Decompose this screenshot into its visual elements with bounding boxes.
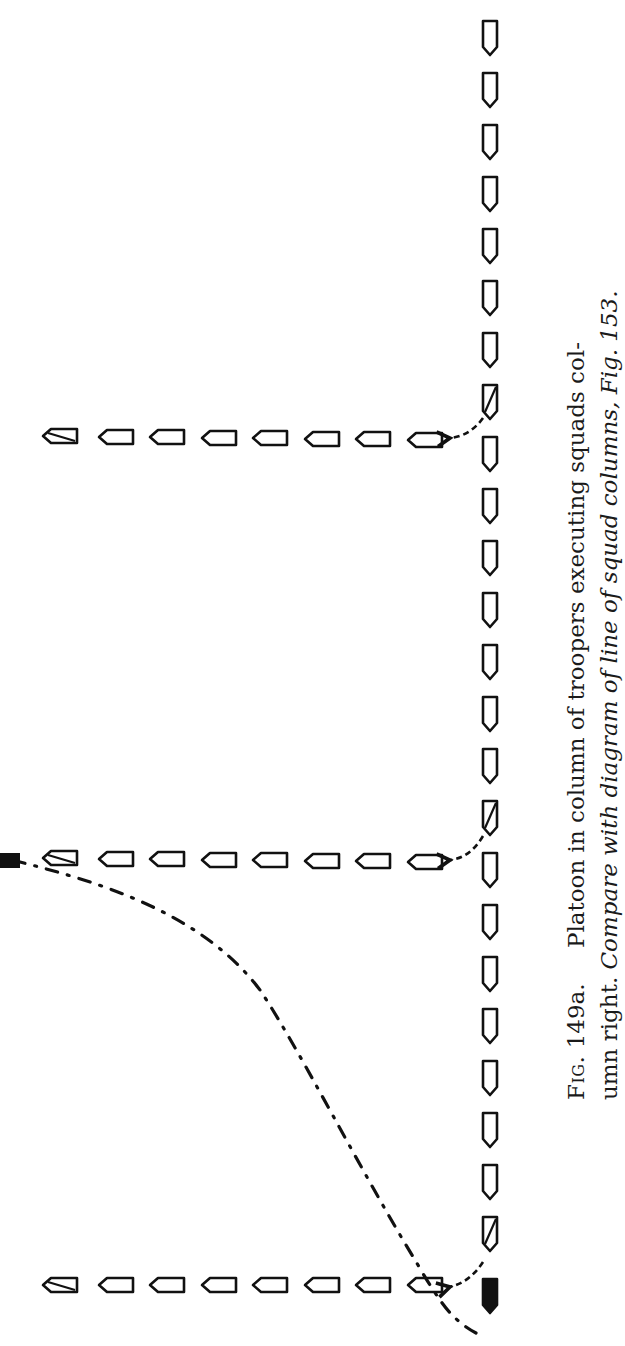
caption-line-2: umn right. Compare with diagram of line …	[593, 250, 625, 1100]
trooper-icon	[99, 852, 133, 866]
figure-caption: Fig. 149a. Platoon in column of troopers…	[520, 0, 600, 1346]
trooper-icon	[483, 749, 497, 783]
trooper-icon	[483, 1009, 497, 1043]
caption-text: Platoon in column of troopers executing …	[563, 342, 589, 948]
wheel-arrow	[450, 418, 483, 438]
trooper-icon	[150, 1278, 184, 1292]
squad-leader-trooper-icon	[43, 851, 77, 865]
trooper-icon	[253, 1278, 287, 1292]
trooper-icon	[356, 432, 390, 446]
trooper-icon	[150, 852, 184, 866]
caption-cross-reference: Compare with diagram of line of squad co…	[596, 290, 622, 969]
trooper-icon	[408, 1278, 442, 1292]
squad-column-2	[0, 836, 483, 869]
figure-number: 149a.	[563, 983, 589, 1048]
squad-leader-trooper-icon	[483, 385, 497, 419]
trooper-icon	[483, 489, 497, 523]
squad-leader-trooper-icon	[43, 429, 77, 443]
trooper-icon	[483, 229, 497, 263]
trooper-icon	[483, 697, 497, 731]
trooper-icon	[483, 645, 497, 679]
trooper-icon	[483, 281, 497, 315]
trooper-icon	[483, 541, 497, 575]
trooper-icon	[202, 1278, 236, 1292]
trooper-icon	[99, 1278, 133, 1292]
caption-line-1: Fig. 149a. Platoon in column of troopers…	[560, 250, 593, 1100]
platoon-leader-icon	[483, 1279, 497, 1313]
trooper-icon	[483, 437, 497, 471]
trooper-icon	[253, 853, 287, 867]
trooper-icon	[305, 854, 339, 868]
figure-label: Fig.	[563, 1056, 589, 1100]
trooper-icon	[483, 1061, 497, 1095]
trooper-icon	[99, 430, 133, 444]
trooper-icon	[483, 1165, 497, 1199]
trooper-icon	[305, 432, 339, 446]
trooper-icon	[202, 853, 236, 867]
trooper-icon	[408, 855, 442, 869]
trooper-icon	[356, 854, 390, 868]
trooper-icon	[150, 430, 184, 444]
trooper-icon	[483, 125, 497, 159]
leader-route-path	[20, 862, 476, 1333]
squad-leader-trooper-icon	[43, 1278, 77, 1292]
trooper-icon	[356, 1278, 390, 1292]
trooper-icon	[483, 21, 497, 55]
trooper-icon	[483, 333, 497, 367]
trooper-icon	[483, 1113, 497, 1147]
squad-column-3	[43, 1262, 483, 1292]
trooper-icon	[483, 593, 497, 627]
caption-text-plain: umn right.	[596, 977, 622, 1100]
original-column	[483, 21, 497, 1313]
trooper-icon	[483, 905, 497, 939]
squad-column-1	[43, 418, 483, 447]
trooper-icon	[202, 431, 236, 445]
trooper-icon	[483, 957, 497, 991]
wheel-arrow	[450, 836, 483, 860]
wheel-arrow	[450, 1262, 483, 1287]
trooper-icon	[408, 433, 442, 447]
squad-leader-trooper-icon	[483, 1217, 497, 1251]
trooper-icon	[483, 853, 497, 887]
squad-leader-trooper-icon	[483, 801, 497, 835]
trooper-icon	[253, 431, 287, 445]
platoon-leader-position-icon	[0, 853, 20, 868]
trooper-icon	[305, 1278, 339, 1292]
trooper-icon	[483, 177, 497, 211]
trooper-icon	[483, 73, 497, 107]
